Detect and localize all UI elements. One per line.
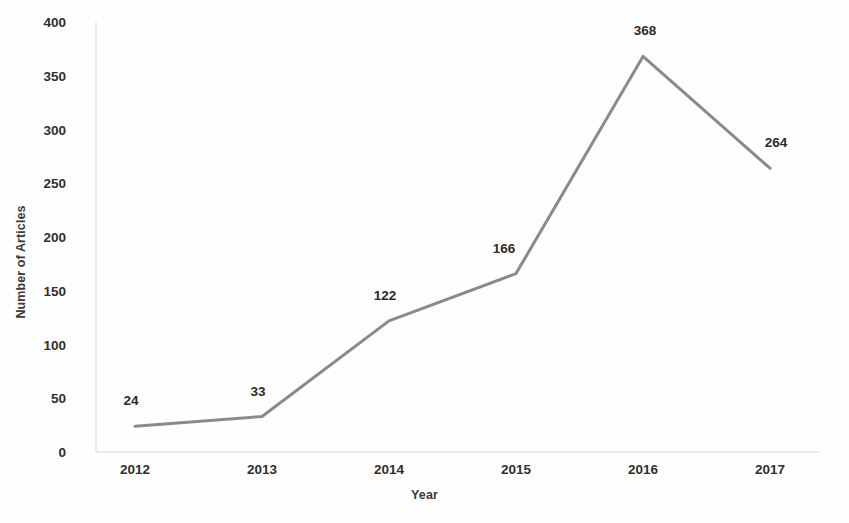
- plot-area: [0, 0, 849, 523]
- x-tick-label: 2012: [100, 462, 170, 477]
- data-point-label: 24: [123, 393, 138, 408]
- data-point-label: 368: [634, 23, 657, 38]
- data-point-label: 264: [765, 135, 788, 150]
- data-point-label: 33: [250, 383, 265, 398]
- line-chart-figure: Number of Articles 050100150200250300350…: [0, 0, 849, 523]
- x-tick-label: 2013: [227, 462, 297, 477]
- axis-lines: [96, 22, 820, 452]
- x-tick-label: 2015: [481, 462, 551, 477]
- x-tick-label: 2014: [354, 462, 424, 477]
- x-tick-label: 2017: [735, 462, 805, 477]
- data-point-label: 166: [493, 240, 516, 255]
- data-point-label: 122: [374, 287, 397, 302]
- x-axis-title: Year: [0, 488, 849, 502]
- x-tick-label: 2016: [608, 462, 678, 477]
- data-series-line: [135, 56, 770, 426]
